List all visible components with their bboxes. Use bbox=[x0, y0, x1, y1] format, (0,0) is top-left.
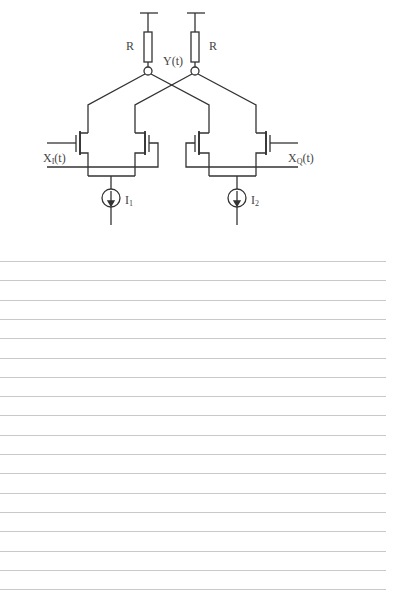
current-source-1-icon bbox=[102, 189, 120, 225]
ruled-line bbox=[0, 415, 386, 416]
output-node-right-icon bbox=[191, 67, 199, 75]
ruled-line bbox=[0, 473, 386, 474]
ruled-line bbox=[0, 570, 386, 571]
resistor-right-icon bbox=[191, 32, 199, 62]
output-node-label: Y(t) bbox=[163, 54, 183, 68]
ruled-line bbox=[0, 512, 386, 513]
resistor-left-icon bbox=[144, 32, 152, 62]
lined-writing-area bbox=[0, 250, 405, 601]
ruled-line bbox=[0, 531, 386, 532]
resistor-right-label: R bbox=[209, 39, 217, 53]
ruled-line bbox=[0, 377, 386, 378]
input-i-label: XI(t) bbox=[43, 151, 66, 166]
transistor-m1-icon bbox=[47, 131, 88, 176]
current-source-2-icon bbox=[228, 189, 246, 225]
resistor-left-label: R bbox=[126, 39, 134, 53]
ruled-line bbox=[0, 300, 386, 301]
drain-wiring bbox=[88, 74, 256, 133]
transistor-m3-icon bbox=[186, 131, 298, 176]
ruled-line bbox=[0, 358, 386, 359]
ruled-line bbox=[0, 551, 386, 552]
ruled-line bbox=[0, 493, 386, 494]
ruled-line bbox=[0, 435, 386, 436]
ruled-line bbox=[0, 338, 386, 339]
current-source-2-label: I2 bbox=[251, 193, 259, 208]
supply-left-icon bbox=[140, 13, 158, 32]
ruled-line bbox=[0, 454, 386, 455]
current-source-1-label: I1 bbox=[125, 193, 133, 208]
input-q-label: XQ(t) bbox=[288, 151, 314, 166]
ruled-line bbox=[0, 319, 386, 320]
gilbert-cell-mixer-schematic: R R Y(t) XI(t) XQ(t) I1 I2 bbox=[0, 0, 405, 250]
ruled-line bbox=[0, 396, 386, 397]
ruled-line bbox=[0, 261, 386, 262]
output-node-left-icon bbox=[144, 67, 152, 75]
ruled-line bbox=[0, 589, 386, 590]
supply-right-icon bbox=[187, 13, 205, 32]
ruled-line bbox=[0, 280, 386, 281]
